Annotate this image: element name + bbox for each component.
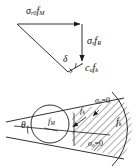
label-cu-fk: cufk bbox=[85, 63, 98, 74]
force-triangle-group bbox=[17, 24, 82, 73]
label-fM: fM bbox=[48, 117, 55, 126]
label-sigma-s-fR: σsfR bbox=[87, 36, 101, 47]
figure-canvas bbox=[0, 0, 138, 168]
label-sigma-theta-zero-top: σθ=0 bbox=[95, 97, 110, 106]
label-sigma-r0-fM: σr0fM bbox=[26, 6, 44, 17]
label-delta: δ bbox=[63, 55, 67, 65]
figure-root: σr0fM σsfR cufk δ θ fM fk fk σθ=0 σθ=0 bbox=[0, 0, 138, 168]
label-theta: θ bbox=[21, 121, 26, 131]
triangle-hypotenuse bbox=[17, 24, 68, 72]
label-fk-right: fk bbox=[116, 117, 122, 128]
label-fk-upper: fk bbox=[80, 106, 85, 115]
label-sigma-theta-zero-bottom: σθ=0 bbox=[88, 140, 103, 149]
